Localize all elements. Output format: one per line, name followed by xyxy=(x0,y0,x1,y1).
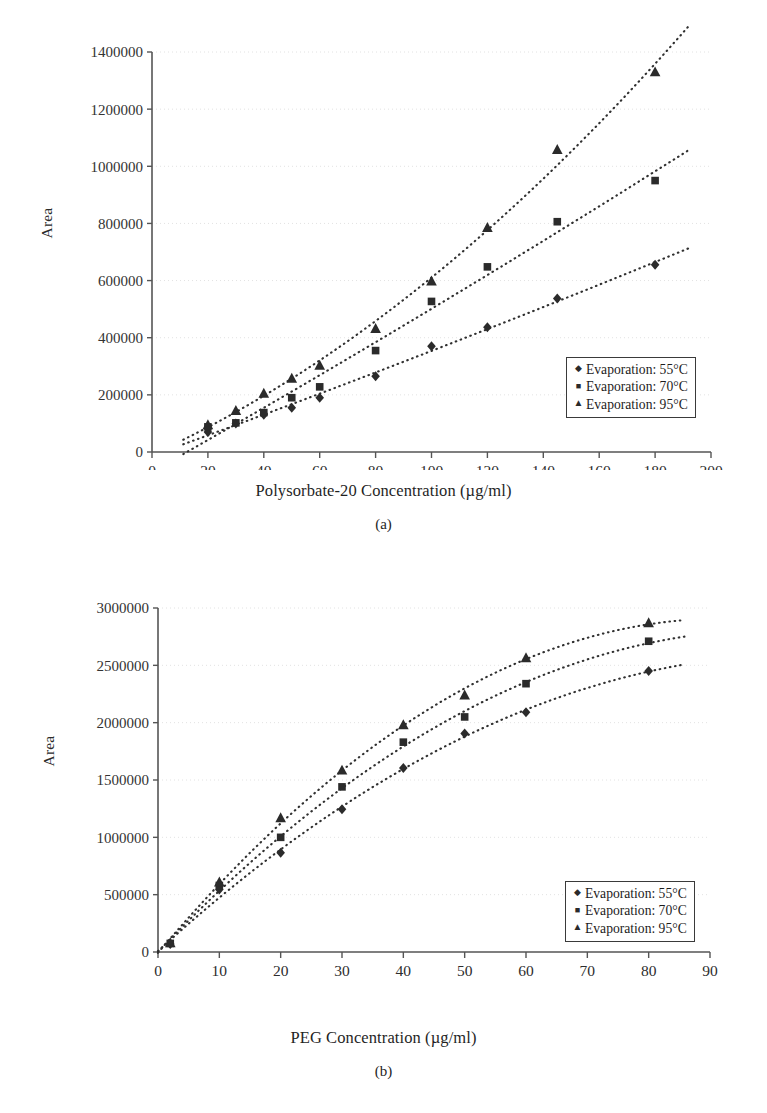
legend-b: Evaporation: 55°C Evaporation: 70°C Evap… xyxy=(565,881,695,942)
figure-panel-a: 0200000400000600000800000100000012000001… xyxy=(0,0,767,560)
x-tick-label: 80 xyxy=(368,462,384,470)
legend-item: Evaporation: 55°C xyxy=(572,361,688,378)
x-tick-label: 40 xyxy=(256,462,272,470)
y-tick-label: 2500000 xyxy=(97,658,150,674)
legend-label: Evaporation: 55°C xyxy=(586,361,688,378)
plot-area-a: 0200000400000600000800000100000012000001… xyxy=(0,0,767,470)
triangle-marker-icon xyxy=(571,921,584,934)
x-tick-label: 0 xyxy=(154,962,162,979)
legend-item: Evaporation: 95°C xyxy=(571,920,687,937)
legend-label: Evaporation: 95°C xyxy=(585,920,687,937)
square-marker-icon xyxy=(572,380,585,393)
x-tick-label: 160 xyxy=(588,462,612,470)
square-marker-icon xyxy=(571,904,584,917)
x-tick-label: 30 xyxy=(334,962,350,979)
x-tick-label: 0 xyxy=(148,462,156,470)
legend-item: Evaporation: 70°C xyxy=(572,378,688,395)
y-tick-label: 800000 xyxy=(98,216,143,232)
triangle-marker-icon xyxy=(572,397,585,410)
x-tick-label: 80 xyxy=(641,962,657,979)
y-tick-label: 1000000 xyxy=(97,830,150,846)
panel-caption-b: (b) xyxy=(0,1063,767,1080)
y-tick-label: 0 xyxy=(142,944,150,960)
x-tick-label: 60 xyxy=(518,962,534,979)
legend-label: Evaporation: 95°C xyxy=(586,396,688,413)
y-tick-label: 1000000 xyxy=(91,159,144,175)
x-axis-title-b: PEG Concentration (µg/ml) xyxy=(0,1028,767,1048)
x-tick-label: 20 xyxy=(200,462,216,470)
panel-caption-a: (a) xyxy=(0,516,767,533)
x-tick-label: 120 xyxy=(476,462,500,470)
y-tick-label: 200000 xyxy=(98,387,143,403)
y-tick-label: 1200000 xyxy=(91,102,144,118)
x-tick-label: 40 xyxy=(396,962,412,979)
y-tick-label: 600000 xyxy=(98,273,143,289)
y-tick-label: 500000 xyxy=(104,887,149,903)
x-tick-label: 90 xyxy=(702,962,718,979)
y-axis-title-a: Area xyxy=(38,188,56,258)
x-tick-label: 200 xyxy=(699,462,723,470)
y-tick-label: 3000000 xyxy=(97,600,150,616)
x-tick-label: 20 xyxy=(273,962,289,979)
y-tick-label: 1400000 xyxy=(91,44,144,60)
y-tick-label: 0 xyxy=(136,444,144,460)
x-tick-label: 50 xyxy=(457,962,473,979)
figure-panel-b: 0500000100000015000002000000250000030000… xyxy=(0,552,767,1113)
x-tick-label: 10 xyxy=(212,962,228,979)
y-tick-label: 1500000 xyxy=(97,772,150,788)
y-tick-label: 400000 xyxy=(98,330,143,346)
legend-label: Evaporation: 70°C xyxy=(585,902,687,919)
legend-label: Evaporation: 55°C xyxy=(585,885,687,902)
y-axis-title-b: Area xyxy=(40,716,58,786)
x-tick-label: 70 xyxy=(580,962,596,979)
legend-label: Evaporation: 70°C xyxy=(586,378,688,395)
legend-item: Evaporation: 95°C xyxy=(572,396,688,413)
legend-item: Evaporation: 70°C xyxy=(571,902,687,919)
x-tick-label: 100 xyxy=(420,462,444,470)
diamond-marker-icon xyxy=(571,886,584,899)
legend-a: Evaporation: 55°C Evaporation: 70°C Evap… xyxy=(566,357,696,418)
chart-b-canvas: 0500000100000015000002000000250000030000… xyxy=(0,552,767,1022)
plot-area-b: 0500000100000015000002000000250000030000… xyxy=(0,552,767,1022)
x-axis-title-a: Polysorbate-20 Concentration (µg/ml) xyxy=(0,481,767,501)
x-tick-label: 60 xyxy=(312,462,328,470)
legend-item: Evaporation: 55°C xyxy=(571,885,687,902)
diamond-marker-icon xyxy=(572,362,585,375)
x-tick-label: 180 xyxy=(643,462,667,470)
x-tick-label: 140 xyxy=(532,462,556,470)
y-tick-label: 2000000 xyxy=(97,715,150,731)
